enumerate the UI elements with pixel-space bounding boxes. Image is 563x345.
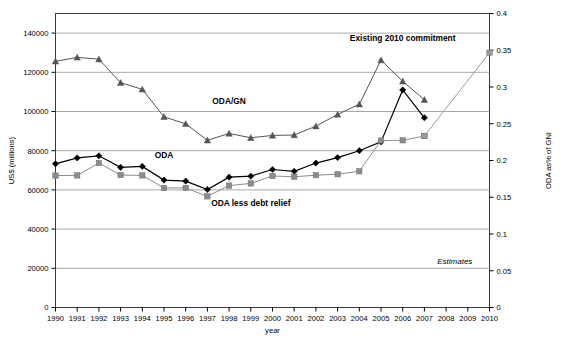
- ytick-label-2: 40000: [27, 225, 48, 234]
- oda-trend-chart: 0200004000060000800001000001200001400000…: [0, 0, 563, 345]
- xtick-label-15: 2005: [373, 314, 390, 323]
- series-2-point-8: [226, 183, 231, 188]
- series-2-point-14: [357, 169, 362, 174]
- series-2-point-9: [248, 181, 253, 186]
- xtick-label-17: 2007: [416, 314, 433, 323]
- ytick-label-5: 100000: [23, 107, 48, 116]
- x-axis-title: year: [265, 326, 280, 335]
- xtick-label-19: 2009: [459, 314, 476, 323]
- xtick-label-10: 2000: [264, 314, 281, 323]
- series-3-point-1: [487, 50, 492, 55]
- xtick-label-18: 2008: [438, 314, 455, 323]
- series-2-point-5: [161, 185, 166, 190]
- xtick-label-20: 2010: [481, 314, 498, 323]
- series-2-point-13: [335, 172, 340, 177]
- annotation-1: ODA: [155, 150, 174, 160]
- ytick-label-0: 0: [44, 303, 48, 312]
- ytick-label-4: 80000: [27, 147, 48, 156]
- series-3-point-0: [422, 133, 427, 138]
- xtick-label-5: 1995: [156, 314, 173, 323]
- ytick-label-7: 140000: [23, 29, 48, 38]
- chart-container: 0200004000060000800001000001200001400000…: [0, 0, 563, 345]
- y2tick-label-6: 0.3: [497, 83, 508, 92]
- xtick-label-3: 1993: [112, 314, 129, 323]
- y-axis-title: US$ (millions): [7, 136, 16, 184]
- xtick-label-4: 1994: [134, 314, 151, 323]
- series-2-point-2: [96, 160, 101, 165]
- series-2-point-4: [140, 173, 145, 178]
- ytick-label-6: 120000: [23, 68, 48, 77]
- series-2-point-10: [270, 173, 275, 178]
- ytick-label-1: 20000: [27, 264, 48, 273]
- series-2-point-0: [53, 173, 58, 178]
- xtick-label-16: 2006: [394, 314, 411, 323]
- series-2-point-3: [118, 172, 123, 177]
- y2tick-label-1: 0.05: [497, 267, 512, 276]
- y2tick-label-3: 0.15: [497, 193, 512, 202]
- y2tick-label-7: 0.35: [497, 46, 512, 55]
- xtick-label-13: 2003: [329, 314, 346, 323]
- series-2-point-16: [400, 138, 405, 143]
- y2tick-label-0: 0: [497, 303, 501, 312]
- y2tick-label-2: 0.1: [497, 230, 508, 239]
- annotation-3: Existing 2010 commitment: [350, 33, 456, 43]
- y2tick-label-4: 0.2: [497, 156, 508, 165]
- annotation-2: ODA less debt relief: [211, 198, 290, 208]
- xtick-label-12: 2002: [307, 314, 324, 323]
- ytick-label-3: 60000: [27, 186, 48, 195]
- series-2-point-7: [205, 194, 210, 199]
- annotation-4: Estimates: [437, 257, 472, 266]
- y2tick-label-8: 0.4: [497, 9, 508, 18]
- series-2-point-12: [313, 173, 318, 178]
- xtick-label-2: 1992: [90, 314, 107, 323]
- xtick-label-6: 1996: [177, 314, 194, 323]
- xtick-label-0: 1990: [47, 314, 64, 323]
- xtick-label-9: 1999: [242, 314, 259, 323]
- series-2-point-15: [378, 138, 383, 143]
- xtick-label-11: 2001: [286, 314, 303, 323]
- xtick-label-8: 1998: [221, 314, 238, 323]
- plot-frame: [56, 14, 490, 308]
- annotation-0: ODA/GN: [212, 96, 246, 106]
- xtick-label-1: 1991: [69, 314, 86, 323]
- series-2-point-1: [75, 173, 80, 178]
- y2tick-label-5: 0.25: [497, 120, 512, 129]
- series-2-point-11: [292, 174, 297, 179]
- y2-axis-title: ODA as% of GNI: [544, 132, 553, 189]
- series-2-point-6: [183, 185, 188, 190]
- xtick-label-14: 2004: [351, 314, 368, 323]
- xtick-label-7: 1997: [199, 314, 216, 323]
